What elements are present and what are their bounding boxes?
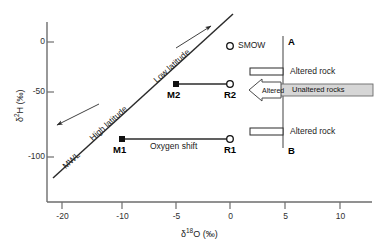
low-latitude-arrow: [176, 26, 211, 48]
y-tick-label-0: 0: [33, 37, 45, 46]
y-axis-delta: δ: [15, 117, 25, 122]
x-tick-label-10: 10: [333, 212, 348, 221]
section-label-b: B: [288, 146, 295, 156]
point-label-smow: SMOW: [238, 41, 265, 50]
x-tick-label-5: 5: [279, 212, 292, 221]
section-label-a: A: [288, 37, 295, 47]
altered-rock-bar-upper: [250, 68, 283, 75]
y-axis-ticks: [47, 42, 54, 157]
y-axis-rest: H (‰): [15, 89, 25, 113]
x-tick-label-0: 0: [224, 212, 237, 221]
x-axis-ticks: [62, 202, 340, 209]
label-unaltered-rocks: Unaltered rocks: [292, 86, 345, 94]
datapoint-r1: [227, 136, 234, 143]
x-axis-title: δ18O (‰): [181, 228, 218, 239]
datapoint-r2: [227, 81, 234, 88]
x-tick-label-minus10: -10: [112, 212, 133, 221]
datapoint-m1: [119, 136, 125, 142]
point-label-m2: M2: [167, 90, 180, 100]
x-tick-label-minus20: -20: [52, 212, 73, 221]
high-latitude-arrow: [57, 104, 99, 125]
point-label-m1: M1: [113, 145, 126, 155]
x-axis-rest: O (‰): [193, 229, 218, 239]
y-axis-superscript: 2: [13, 113, 20, 117]
point-label-r1: R1: [224, 145, 236, 155]
altered-rock-bar-lower: [250, 128, 283, 135]
datapoint-smow: [227, 43, 234, 50]
y-axis-title: δ2H (‰): [14, 89, 25, 122]
y-tick-label-minus100: -100: [18, 152, 45, 161]
y-tick-label-minus50: -50: [22, 87, 45, 96]
annotation-oxygen-shift: Oxygen shift: [150, 142, 197, 151]
datapoint-m2: [173, 81, 179, 87]
point-label-r2: R2: [224, 90, 236, 100]
axis-lines: [47, 22, 372, 202]
isotope-oxygen-shift-figure: 0 -50 -100 δ2H (‰) -20 -10 -5 0 5 10 δ18…: [0, 0, 380, 248]
x-tick-label-minus5: -5: [168, 212, 185, 221]
label-altered-arrow: Altered: [262, 87, 284, 94]
label-altered-rock-lower: Altered rock: [290, 127, 335, 136]
label-altered-rock-upper: Altered rock: [290, 67, 335, 76]
mwl-line: [53, 14, 233, 178]
